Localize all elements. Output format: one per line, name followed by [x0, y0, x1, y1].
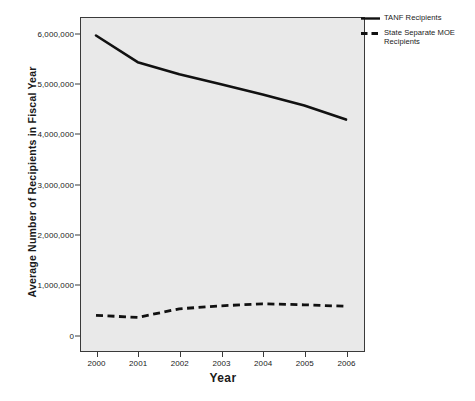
y-tick-mark	[75, 335, 80, 336]
plot-series-svg	[81, 18, 363, 350]
series-line-state-separate-moe-recipients	[96, 304, 346, 318]
plot-area	[80, 17, 365, 352]
y-tick-mark	[75, 285, 80, 286]
x-tick-mark	[222, 352, 223, 357]
x-tick-label: 2000	[77, 359, 117, 368]
x-tick-label: 2005	[285, 359, 325, 368]
x-tick-label: 2003	[202, 359, 242, 368]
y-tick-mark	[75, 83, 80, 84]
legend-item-state-separate-moe-recipients: State Separate MOE Recipients	[361, 27, 475, 46]
x-tick-mark	[97, 352, 98, 357]
y-tick-label: 1,000,000	[12, 281, 74, 290]
x-tick-mark	[138, 352, 139, 357]
y-tick-mark	[75, 234, 80, 235]
dashed-line-swatch-icon	[361, 27, 380, 39]
x-tick-label: 2006	[327, 359, 367, 368]
x-tick-label: 2004	[243, 359, 283, 368]
x-tick-label: 2001	[118, 359, 158, 368]
line-chart-figure: Average Number of Recipients in Fiscal Y…	[0, 0, 475, 401]
y-tick-label: 4,000,000	[12, 130, 74, 139]
chart-legend: TANF Recipients State Separate MOE Recip…	[361, 12, 475, 49]
legend-label-state-separate-moe-recipients: State Separate MOE Recipients	[384, 27, 475, 46]
y-tick-label: 0	[12, 331, 74, 340]
y-tick-mark	[75, 134, 80, 135]
y-tick-mark	[75, 184, 80, 185]
x-tick-mark	[263, 352, 264, 357]
y-tick-label: 5,000,000	[12, 79, 74, 88]
y-tick-label: 6,000,000	[12, 29, 74, 38]
x-tick-mark	[180, 352, 181, 357]
x-tick-label: 2002	[160, 359, 200, 368]
x-tick-mark	[305, 352, 306, 357]
legend-label-tanf-recipients: TANF Recipients	[384, 12, 442, 22]
legend-item-tanf-recipients: TANF Recipients	[361, 12, 475, 24]
solid-line-swatch-icon	[361, 12, 380, 24]
y-tick-label: 3,000,000	[12, 180, 74, 189]
x-tick-mark	[347, 352, 348, 357]
x-axis-title: Year	[80, 371, 366, 385]
y-tick-label: 2,000,000	[12, 230, 74, 239]
series-line-tanf-recipients	[96, 36, 346, 120]
y-tick-mark	[75, 33, 80, 34]
